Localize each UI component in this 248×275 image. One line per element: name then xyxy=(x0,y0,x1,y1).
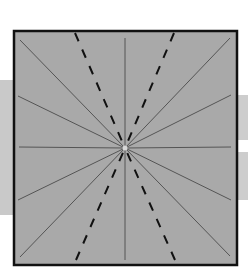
center-point xyxy=(123,146,128,151)
radial-diagram xyxy=(0,0,248,275)
